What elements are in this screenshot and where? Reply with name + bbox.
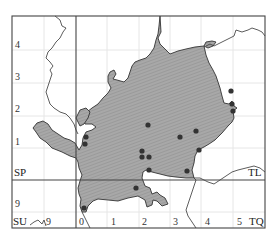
- northing-label: 3: [15, 72, 20, 82]
- distribution-map: SP TL SU TQ 4 3 2 1 9 9 0 1 2 3 4 5: [0, 0, 277, 241]
- grid-square-tq: TQ: [249, 216, 264, 226]
- record-dot: [146, 154, 151, 159]
- northing-label: 2: [15, 104, 20, 114]
- easting-label: 1: [111, 217, 116, 227]
- record-dot: [139, 154, 144, 159]
- grid-square-tl: TL: [248, 167, 261, 177]
- easting-label: 5: [237, 217, 242, 227]
- record-dot: [81, 205, 86, 210]
- record-dot: [177, 134, 182, 139]
- easting-label: 4: [205, 217, 210, 227]
- record-dot: [145, 122, 150, 127]
- easting-label: 0: [79, 217, 84, 227]
- record-dot: [139, 148, 144, 153]
- easting-label: 3: [173, 217, 178, 227]
- northing-label: 9: [15, 199, 20, 209]
- record-dot: [196, 147, 201, 152]
- grid-square-su: SU: [13, 216, 27, 226]
- map-canvas: [0, 0, 277, 241]
- easting-label: 2: [142, 217, 147, 227]
- record-dot: [229, 101, 234, 106]
- record-dot: [83, 134, 88, 139]
- northing-label: 1: [15, 137, 20, 147]
- easting-label: 9: [46, 217, 51, 227]
- record-dot: [228, 88, 233, 93]
- record-dot: [184, 168, 189, 173]
- record-dot: [133, 185, 138, 190]
- record-dot: [82, 141, 87, 146]
- record-dot: [193, 128, 198, 133]
- record-dot: [146, 167, 151, 172]
- record-dot: [230, 108, 235, 113]
- northing-label: 4: [15, 40, 20, 50]
- grid-square-sp: SP: [14, 167, 26, 177]
